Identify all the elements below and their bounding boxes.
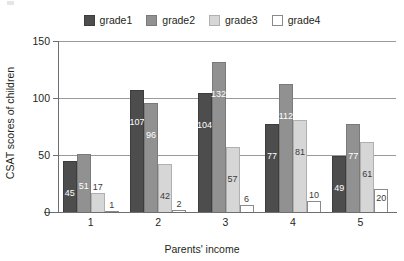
y-axis-title: CSAT scores of children bbox=[2, 34, 18, 212]
bar-group: 104132576 bbox=[198, 41, 254, 212]
y-tick-mark bbox=[53, 41, 58, 42]
legend-swatch-grade4 bbox=[272, 15, 283, 26]
bar-value-label: 132 bbox=[211, 89, 226, 99]
bar-value-label: 49 bbox=[334, 183, 344, 193]
bar-value-label: 61 bbox=[362, 169, 372, 179]
y-tick-label: 50 bbox=[38, 149, 50, 161]
legend-swatch-grade1 bbox=[84, 15, 95, 26]
bar-value-label: 57 bbox=[227, 174, 237, 184]
legend-label-grade2: grade2 bbox=[162, 15, 195, 26]
x-tick-label: 2 bbox=[155, 216, 161, 228]
scan-artifact bbox=[7, 1, 14, 5]
bar-group: 49776120 bbox=[332, 41, 388, 212]
bar-grade4-3[interactable]: 6 bbox=[240, 205, 254, 212]
bar-value-label: 10 bbox=[309, 190, 319, 200]
bar-grade2-5[interactable]: 77 bbox=[346, 124, 360, 212]
bar-grade3-2[interactable]: 42 bbox=[158, 164, 172, 212]
bar-grade3-5[interactable]: 61 bbox=[360, 142, 374, 212]
legend-item-grade4: grade4 bbox=[272, 15, 321, 26]
bar-grade2-3[interactable]: 132 bbox=[212, 62, 226, 212]
bar-value-label: 17 bbox=[93, 182, 103, 192]
bar-value-label: 77 bbox=[348, 151, 358, 161]
legend-label-grade1: grade1 bbox=[100, 15, 133, 26]
bar-value-label: 1 bbox=[109, 200, 114, 210]
bar-value-label: 112 bbox=[279, 111, 293, 121]
x-tick-label: 3 bbox=[223, 216, 229, 228]
bar-grade3-3[interactable]: 57 bbox=[226, 147, 240, 212]
legend-item-grade3: grade3 bbox=[209, 15, 258, 26]
x-tick-label: 5 bbox=[357, 216, 363, 228]
legend-swatch-grade3 bbox=[209, 15, 220, 26]
bar-grade2-1[interactable]: 51 bbox=[77, 154, 91, 212]
bar-grade1-3[interactable]: 104 bbox=[198, 93, 212, 212]
bar-value-label: 107 bbox=[130, 117, 145, 127]
bar-value-label: 20 bbox=[376, 193, 386, 203]
bar-grade1-1[interactable]: 45 bbox=[63, 161, 77, 212]
bar-grade3-4[interactable]: 81 bbox=[293, 120, 307, 212]
bar-grade1-4[interactable]: 77 bbox=[265, 124, 279, 212]
bar-value-label: 81 bbox=[295, 147, 305, 157]
x-tick-label: 4 bbox=[290, 216, 296, 228]
x-axis-line bbox=[44, 212, 397, 213]
bar-value-label: 42 bbox=[160, 191, 170, 201]
chart-legend: grade1 grade2 grade3 grade4 bbox=[0, 12, 404, 28]
bar-grade2-2[interactable]: 96 bbox=[144, 103, 158, 212]
legend-label-grade3: grade3 bbox=[225, 15, 258, 26]
bar-grade2-4[interactable]: 112 bbox=[279, 84, 293, 212]
bar-grade4-4[interactable]: 10 bbox=[307, 201, 321, 212]
legend-item-grade2: grade2 bbox=[146, 15, 195, 26]
bar-value-label: 104 bbox=[197, 120, 212, 130]
x-axis-title: Parents' income bbox=[0, 243, 404, 255]
bar-grade4-1[interactable]: 1 bbox=[105, 211, 119, 213]
bar-group: 4551171 bbox=[63, 41, 119, 212]
bar-chart-figure: grade1 grade2 grade3 grade4 CSAT scores … bbox=[0, 0, 404, 261]
bar-value-label: 96 bbox=[146, 130, 156, 140]
legend-swatch-grade2 bbox=[146, 15, 157, 26]
bar-group: 10796422 bbox=[130, 41, 186, 212]
bar-group: 771128110 bbox=[265, 41, 321, 212]
bar-value-label: 45 bbox=[65, 188, 75, 198]
bar-grade1-5[interactable]: 49 bbox=[332, 156, 346, 212]
y-tick-mark bbox=[53, 98, 58, 99]
bar-value-label: 6 bbox=[244, 194, 249, 204]
plot-area: 0501001504551171107964221041325767711281… bbox=[59, 41, 396, 212]
bar-grade1-2[interactable]: 107 bbox=[130, 90, 144, 212]
legend-label-grade4: grade4 bbox=[288, 15, 321, 26]
x-tick-label: 1 bbox=[88, 216, 94, 228]
bar-grade4-2[interactable]: 2 bbox=[172, 210, 186, 212]
y-tick-mark bbox=[53, 212, 58, 213]
bar-grade4-5[interactable]: 20 bbox=[374, 189, 388, 212]
bar-value-label: 2 bbox=[177, 199, 182, 209]
legend-item-grade1: grade1 bbox=[84, 15, 133, 26]
y-tick-label: 150 bbox=[32, 35, 50, 47]
bar-grade3-1[interactable]: 17 bbox=[91, 193, 105, 212]
y-axis-title-text: CSAT scores of children bbox=[4, 67, 16, 179]
bar-value-label: 77 bbox=[267, 151, 277, 161]
y-tick-mark bbox=[53, 155, 58, 156]
bar-value-label: 51 bbox=[79, 181, 89, 191]
y-tick-label: 0 bbox=[44, 206, 50, 218]
y-tick-label: 100 bbox=[32, 92, 50, 104]
